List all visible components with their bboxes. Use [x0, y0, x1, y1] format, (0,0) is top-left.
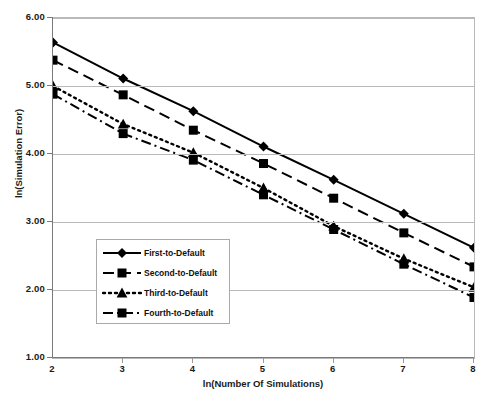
y-tick-label: 6.00: [1, 11, 45, 22]
x-tick-mark: [333, 358, 334, 363]
data-point-marker-square: [259, 159, 268, 168]
legend-label: Fourth-to-Default: [144, 308, 213, 318]
x-axis-title: ln(Number Of Simulations): [52, 378, 474, 389]
legend-swatch-icon: [102, 246, 142, 260]
data-point-marker-diamond: [469, 243, 474, 253]
data-point-marker-triangle: [118, 119, 129, 129]
data-point-marker-diamond: [399, 209, 409, 219]
gridline: [53, 18, 474, 19]
gridline: [53, 154, 474, 155]
y-tick-label: 2.00: [1, 283, 45, 294]
x-tick-label: 7: [388, 363, 418, 374]
x-tick-mark: [122, 358, 123, 363]
x-tick-label: 2: [37, 363, 67, 374]
x-tick-label: 8: [458, 363, 488, 374]
series-1: [53, 37, 474, 252]
y-axis-line: [52, 17, 53, 358]
x-tick-mark: [192, 358, 193, 363]
data-point-marker-square: [399, 260, 408, 269]
legend-swatch-icon: [102, 306, 142, 320]
y-tick-mark: [47, 357, 52, 358]
y-tick-mark: [47, 289, 52, 290]
x-tick-label: 4: [177, 363, 207, 374]
legend-item-1[interactable]: First-to-Default: [97, 242, 229, 263]
gridline: [53, 222, 474, 223]
data-point-marker-square: [470, 262, 475, 271]
data-point-marker-square: [119, 90, 128, 99]
y-tick-mark: [47, 85, 52, 86]
gridline: [53, 86, 474, 87]
data-point-marker-square: [53, 56, 58, 65]
y-tick-mark: [47, 221, 52, 222]
y-tick-label: 1.00: [1, 351, 45, 362]
data-point-marker-diamond: [329, 175, 339, 185]
data-point-marker-square: [189, 156, 198, 165]
legend-swatch-icon: [102, 266, 142, 280]
chart-legend: First-to-DefaultSecond-to-DefaultThird-t…: [96, 239, 230, 324]
legend-item-3[interactable]: Third-to-Default: [97, 282, 229, 303]
y-tick-mark: [47, 153, 52, 154]
data-point-marker-square: [329, 194, 338, 203]
legend-label: Second-to-Default: [144, 268, 217, 278]
x-tick-label: 5: [248, 363, 278, 374]
y-axis-title: ln(Simulation Error): [13, 74, 24, 234]
legend-label: First-to-Default: [144, 248, 205, 258]
data-point-marker-square: [259, 190, 268, 199]
legend-label: Third-to-Default: [144, 288, 208, 298]
data-point-marker-diamond: [259, 142, 269, 152]
data-point-marker-diamond: [117, 248, 127, 258]
legend-item-2[interactable]: Second-to-Default: [97, 262, 229, 283]
x-tick-label: 3: [107, 363, 137, 374]
y-tick-mark: [47, 17, 52, 18]
data-point-marker-square: [189, 126, 198, 135]
x-tick-mark: [403, 358, 404, 363]
x-tick-label: 6: [318, 363, 348, 374]
data-point-marker-square: [399, 228, 408, 237]
data-point-marker-square: [118, 268, 127, 277]
data-point-marker-square: [53, 90, 58, 99]
legend-swatch-icon: [102, 286, 142, 300]
chart-container: 1.002.003.004.005.006.00 2345678 ln(Simu…: [0, 0, 489, 400]
data-point-marker-diamond: [118, 74, 128, 84]
data-point-marker-square: [470, 293, 475, 302]
x-tick-mark: [473, 358, 474, 363]
data-point-marker-square: [329, 225, 338, 234]
legend-item-4[interactable]: Fourth-to-Default: [97, 302, 229, 323]
data-point-marker-diamond: [188, 106, 198, 116]
data-point-marker-diamond: [53, 37, 58, 47]
data-point-marker-square: [119, 129, 128, 138]
data-point-marker-square: [118, 308, 127, 317]
x-tick-mark: [263, 358, 264, 363]
data-point-marker-triangle: [117, 287, 128, 297]
